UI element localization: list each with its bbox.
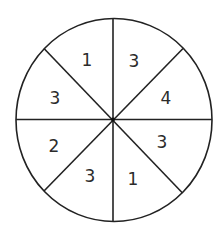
sector-label-right-upper: 4: [156, 88, 176, 108]
sector-label-bottom-right: 1: [123, 169, 143, 189]
sector-label-top-right: 3: [124, 51, 144, 71]
sector-label-left-lower: 2: [44, 136, 64, 156]
spinner-center-dot: [111, 118, 115, 122]
spinner-diagram: 3 4 3 1 3 2 3 1: [0, 0, 222, 236]
sector-label-right-lower: 3: [152, 132, 172, 152]
sector-label-bottom-left: 3: [80, 166, 100, 186]
spinner-outline: [0, 0, 222, 236]
sector-label-top-left: 1: [77, 50, 97, 70]
sector-label-left-upper: 3: [45, 88, 65, 108]
